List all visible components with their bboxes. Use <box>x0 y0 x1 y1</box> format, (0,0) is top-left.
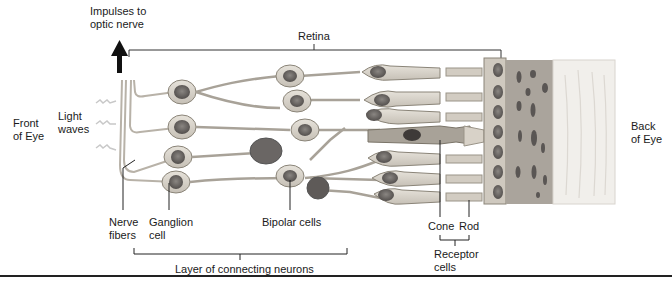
receptor-cells-label: Receptor cells <box>434 248 479 274</box>
choroid-layer <box>506 60 553 204</box>
receptor-bracket <box>440 235 469 246</box>
nerve-fibers <box>120 80 175 182</box>
impulses-label: Impulses to optic nerve <box>90 5 146 31</box>
bipolar-cells-label: Bipolar cells <box>262 216 321 229</box>
arrow-up-icon <box>111 40 128 73</box>
retina-bracket <box>129 44 501 58</box>
cone-label: Cone <box>428 220 454 233</box>
retina-label: Retina <box>298 30 330 43</box>
nerve-fibers-label: Nerve fibers <box>109 216 138 242</box>
back-of-eye-label: Back of Eye <box>631 120 662 146</box>
connecting-neurons-bracket <box>134 248 347 260</box>
light-waves-label: Light waves <box>58 110 89 136</box>
rod-label: Rod <box>459 220 479 233</box>
retina-diagram-art <box>0 0 672 291</box>
receptor-cells <box>362 65 484 204</box>
bottom-divider <box>0 275 672 277</box>
cone-cell <box>368 126 484 146</box>
ganglion-cells <box>162 80 196 193</box>
sclera-layer <box>553 60 615 204</box>
pigment-epithelium <box>484 58 506 204</box>
front-of-eye-label: Front of Eye <box>13 117 44 143</box>
light-wave-icons <box>96 100 116 150</box>
ganglion-cell-label: Ganglion cell <box>149 216 193 242</box>
